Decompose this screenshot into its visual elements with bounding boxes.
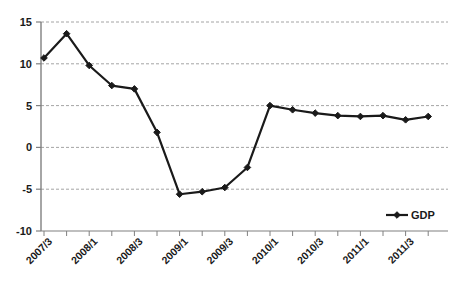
legend-label-gdp: GDP xyxy=(411,209,435,221)
y-tick-label: 10 xyxy=(20,58,32,70)
y-tick-label: 5 xyxy=(26,100,32,112)
y-tick-label: -5 xyxy=(22,183,32,195)
chart-canvas: 151050-5-10 2007/32008/12008/32009/12009… xyxy=(0,0,454,285)
y-tick-label: 15 xyxy=(20,16,32,28)
y-tick-label: -10 xyxy=(16,225,32,237)
gdp-line-chart: 151050-5-10 2007/32008/12008/32009/12009… xyxy=(0,0,454,285)
y-tick-label: 0 xyxy=(26,141,32,153)
